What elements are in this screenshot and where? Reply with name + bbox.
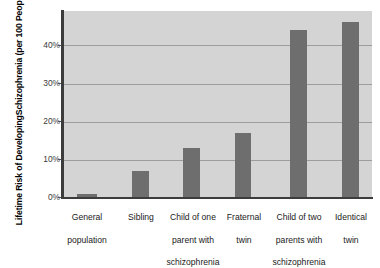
y-axis-title-line-2: Schizophrenia (per 100 People): [14, 0, 25, 115]
x-tick-label-fraternal-twin: Fraternal twin: [220, 201, 268, 246]
x-label-line: Child of two: [277, 212, 322, 222]
x-label-line: schizophrenia: [272, 257, 325, 267]
x-label-line: schizophrenia: [166, 257, 219, 267]
plot-area: [63, 11, 372, 198]
gridline-30: [63, 84, 372, 85]
y-axis-ticks: 40% 30% 20% 10% 0%: [30, 0, 60, 249]
x-label-line: Fraternal: [227, 212, 261, 222]
x-label-line: twin: [236, 235, 251, 245]
gridline-20: [63, 122, 372, 123]
x-label-line: twin: [343, 235, 358, 245]
x-tick-label-child-of-two-parents: Child of two parents with schizophrenia: [268, 201, 330, 268]
x-label-line: General: [72, 212, 103, 222]
x-tick-label-identical-twin: Identical twin: [328, 201, 374, 246]
y-tick-label-10: 10%: [34, 155, 60, 164]
gridline-40: [63, 45, 372, 46]
bar-child-of-one-parent: [183, 148, 200, 198]
bar-child-of-two-parents: [290, 30, 307, 198]
x-label-line: parent with: [172, 235, 214, 245]
y-tick-label-30: 30%: [34, 79, 60, 88]
x-label-line: Identical: [335, 212, 367, 222]
gridline-10: [63, 160, 372, 161]
x-label-line: Sibling: [128, 212, 154, 222]
x-axis-line: [61, 197, 373, 200]
bar-fraternal-twin: [235, 133, 251, 198]
x-label-line: population: [67, 235, 107, 245]
y-axis-line: [61, 10, 64, 199]
y-axis-title-line-1: Lifetime Risk of Developing: [14, 115, 25, 225]
y-tick-label-40: 40%: [34, 41, 60, 50]
y-tick-label-20: 20%: [34, 117, 60, 126]
x-tick-label-sibling: Sibling: [118, 201, 164, 223]
x-label-line: parents with: [276, 235, 322, 245]
x-tick-label-child-of-one-parent: Child of one parent with schizophrenia: [163, 201, 223, 268]
y-tick-label-0: 0%: [34, 193, 60, 202]
x-label-line: Child of one: [170, 212, 216, 222]
bar-sibling: [132, 171, 149, 198]
x-tick-label-general-population: General population: [61, 201, 113, 246]
bar-identical-twin: [342, 22, 359, 198]
x-axis-labels: General population Sibling Child of one …: [63, 201, 372, 249]
